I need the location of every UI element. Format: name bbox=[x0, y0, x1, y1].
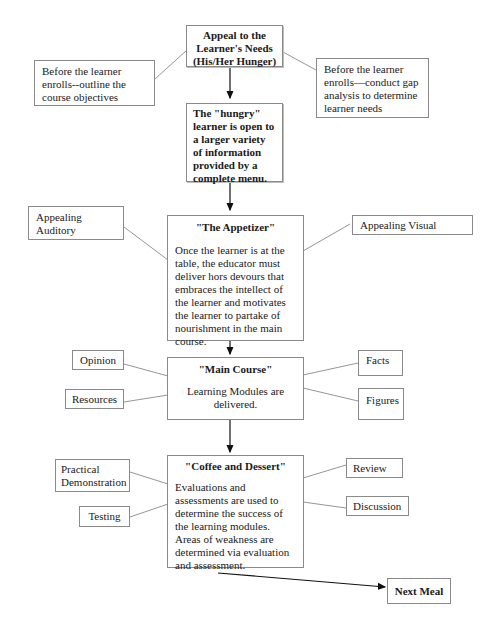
main-course-box: "Main Course" Learning Modules are deliv… bbox=[167, 357, 304, 420]
appetizer-title: "The Appetizer" bbox=[175, 221, 296, 234]
note-text: Figures bbox=[366, 394, 399, 406]
appetizer-box: "The Appetizer" Once the learner is at t… bbox=[167, 215, 304, 341]
coffee-dessert-body: Evaluations and assessments are used to … bbox=[175, 481, 296, 572]
note-appealing-auditory: Appealing Auditory bbox=[28, 206, 124, 240]
note-text: Facts bbox=[366, 354, 389, 366]
note-text: Appealing Auditory bbox=[36, 211, 82, 236]
hungry-learner-text: The "hungry" learner is open to a larger… bbox=[193, 107, 274, 184]
note-review: Review bbox=[346, 458, 403, 478]
note-text: Discussion bbox=[353, 500, 401, 512]
coffee-dessert-box: "Coffee and Dessert" Evaluations and ass… bbox=[167, 455, 304, 568]
note-opinion: Opinion bbox=[72, 350, 124, 370]
note-text: Appealing Visual bbox=[360, 219, 436, 231]
flow-diagram: Appeal to the Learner's Needs (His/Her H… bbox=[0, 0, 499, 637]
note-gap-analysis: Before the learner enrolls—conduct gap a… bbox=[316, 58, 429, 118]
next-meal-box: Next Meal bbox=[387, 578, 451, 604]
appeal-title: Appeal to the Learner's Needs (His/Her H… bbox=[193, 29, 276, 67]
note-resources: Resources bbox=[65, 389, 124, 409]
note-text: Before the learner enrolls—conduct gap a… bbox=[324, 63, 418, 114]
note-text: Testing bbox=[88, 510, 120, 522]
note-discussion: Discussion bbox=[346, 496, 409, 516]
next-meal-text: Next Meal bbox=[395, 585, 444, 597]
note-text: Review bbox=[353, 462, 387, 474]
coffee-dessert-title: "Coffee and Dessert" bbox=[175, 460, 296, 473]
note-facts: Facts bbox=[358, 350, 403, 376]
note-text: Practical Demonstration bbox=[61, 463, 126, 488]
note-text: Before the learner enrolls--outline the … bbox=[42, 65, 126, 103]
appeal-box: Appeal to the Learner's Needs (His/Her H… bbox=[186, 25, 283, 67]
note-outline-objectives: Before the learner enrolls--outline the … bbox=[34, 60, 155, 106]
main-course-title: "Main Course" bbox=[174, 363, 297, 376]
hungry-learner-box: The "hungry" learner is open to a larger… bbox=[186, 103, 283, 182]
note-appealing-visual: Appealing Visual bbox=[352, 215, 473, 235]
note-figures: Figures bbox=[358, 388, 404, 420]
appetizer-body: Once the learner is at the table, the ed… bbox=[175, 244, 296, 348]
note-practical-demonstration: Practical Demonstration bbox=[55, 459, 130, 492]
note-text: Opinion bbox=[80, 354, 116, 366]
main-course-body: Learning Modules are delivered. bbox=[174, 385, 297, 411]
note-text: Resources bbox=[72, 393, 117, 405]
note-testing: Testing bbox=[79, 506, 130, 527]
